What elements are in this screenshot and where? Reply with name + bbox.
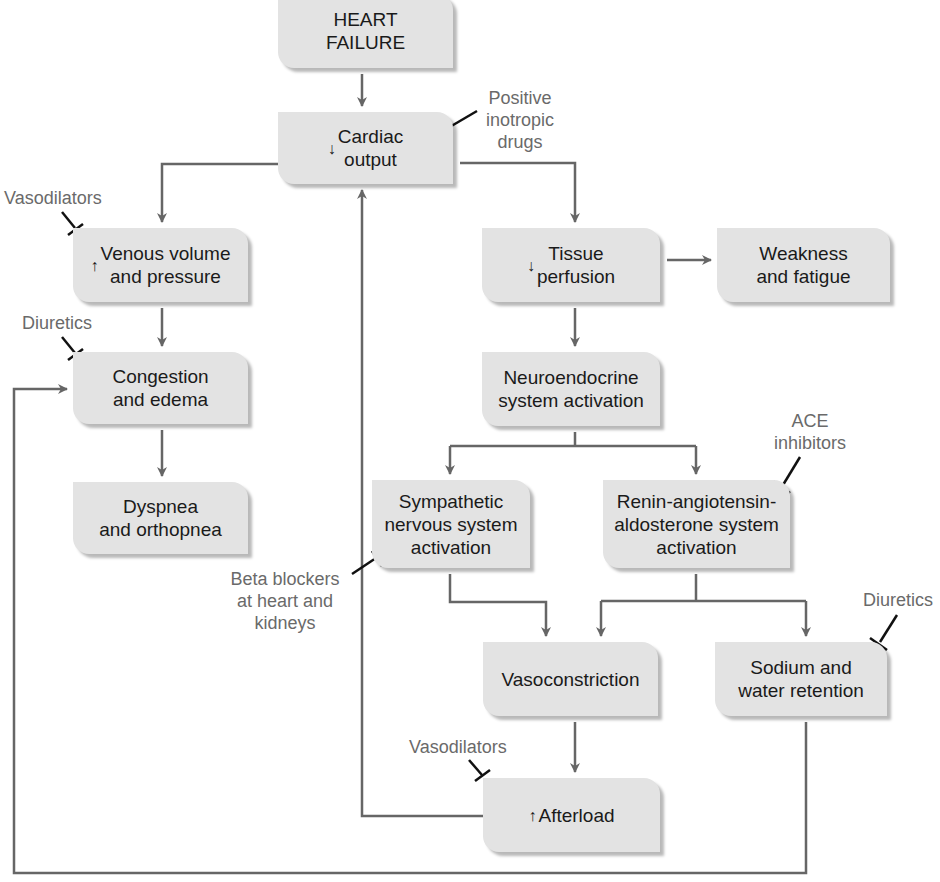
- node-raas-text: Renin-angiotensin- aldosterone system ac…: [614, 490, 779, 559]
- node-afterload: ↑ Afterload: [483, 778, 660, 852]
- node-cardiac-output: ↓ Cardiac output: [278, 112, 453, 184]
- increase-arrow-icon: ↑: [91, 254, 99, 277]
- node-dyspnea-orthopnea-text: Dyspnea and orthopnea: [99, 495, 222, 541]
- node-sympathetic: Sympathetic nervous system activation: [372, 480, 530, 568]
- drug-label-inotropic: Positive inotropic drugs: [470, 87, 570, 153]
- decrease-arrow-icon: ↓: [527, 254, 535, 277]
- node-venous-volume: ↑ Venous volume and pressure: [73, 228, 248, 302]
- decrease-arrow-icon: ↓: [328, 137, 336, 160]
- node-congestion-edema-text: Congestion and edema: [112, 365, 208, 411]
- node-sodium-water-text: Sodium and water retention: [738, 656, 864, 702]
- arrow-cardiac-to-venous: [162, 164, 278, 222]
- node-neuroendocrine-text: Neuroendocrine system activation: [498, 366, 644, 412]
- arrow-sympathetic-to-vasoconstriction: [450, 574, 546, 636]
- drug-label-ace-inhibitors: ACE inhibitors: [760, 410, 860, 454]
- heart-failure-flowchart: HEART FAILURE ↓ Cardiac output ↑ Venous …: [0, 0, 940, 882]
- node-neuroendocrine: Neuroendocrine system activation: [482, 352, 660, 426]
- increase-arrow-icon: ↑: [528, 804, 536, 827]
- node-venous-volume-text: Venous volume and pressure: [101, 242, 231, 288]
- node-heart-failure-text: HEART FAILURE: [326, 8, 405, 54]
- node-cardiac-output-text: Cardiac output: [338, 125, 403, 171]
- arrow-sodium-to-congestion: [14, 389, 806, 873]
- node-sodium-water: Sodium and water retention: [715, 642, 887, 716]
- drug-label-diuretics-congestion: Diuretics: [22, 312, 122, 334]
- node-congestion-edema: Congestion and edema: [73, 352, 248, 424]
- node-tissue-perfusion: ↓ Tissue perfusion: [482, 228, 660, 302]
- node-vasoconstriction-text: Vasoconstriction: [502, 668, 640, 691]
- node-dyspnea-orthopnea: Dyspnea and orthopnea: [73, 482, 248, 554]
- node-raas: Renin-angiotensin- aldosterone system ac…: [603, 480, 790, 568]
- node-weakness-fatigue: Weakness and fatigue: [717, 228, 890, 302]
- arrow-cardiac-to-tissue: [460, 163, 575, 222]
- drug-label-diuretics-sodium: Diuretics: [853, 589, 940, 611]
- node-heart-failure: HEART FAILURE: [278, 0, 453, 68]
- line-neuro-split: [450, 432, 696, 446]
- drug-label-vasodilators-venous: Vasodilators: [4, 187, 114, 209]
- node-afterload-text: Afterload: [538, 804, 614, 827]
- node-weakness-fatigue-text: Weakness and fatigue: [756, 242, 850, 288]
- node-vasoconstriction: Vasoconstriction: [483, 642, 658, 716]
- node-tissue-perfusion-text: Tissue perfusion: [537, 242, 615, 288]
- drug-label-beta-blockers: Beta blockers at heart and kidneys: [220, 568, 350, 634]
- drug-label-vasodilators-afterload: Vasodilators: [409, 736, 529, 758]
- line-raas-split: [601, 574, 806, 601]
- node-sympathetic-text: Sympathetic nervous system activation: [384, 490, 517, 559]
